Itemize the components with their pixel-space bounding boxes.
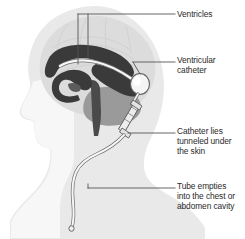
label-ventricular-catheter: Ventricular catheter [177,55,215,75]
label-ventricles: Ventricles [177,9,212,19]
label-tube-empties: Tube empties into the chest or abdomen c… [177,181,235,212]
shunt-reservoir [131,74,150,95]
shunt-diagram: Ventricles Ventricular catheter Catheter… [0,0,245,239]
label-catheter-tunneled: Catheter lies tunneled under the skin [177,126,231,157]
